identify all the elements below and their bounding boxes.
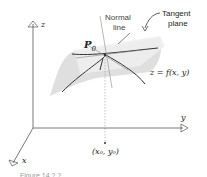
x-axis-label: x xyxy=(22,157,27,165)
tangent-leader-arrow xyxy=(145,13,160,28)
z-axis-label: z xyxy=(41,21,45,29)
normal-label-1: Normal xyxy=(105,14,131,22)
normal-label-2: line xyxy=(113,24,125,32)
base-point-label: (x₀, y₀) xyxy=(92,148,119,156)
base-point xyxy=(104,142,106,144)
tangent-plane-diagram: z y x Normal line Tangent plane P0 z = f… xyxy=(0,0,207,177)
point-label: P0 xyxy=(84,40,96,53)
y-axis-label: y xyxy=(181,114,186,122)
point-p0 xyxy=(104,54,106,56)
surface-equation: z = f(x, y) xyxy=(150,69,189,77)
arrowhead-icon xyxy=(142,26,148,31)
tangent-label-1: Tangent xyxy=(162,10,190,18)
figure-caption: Figure 14.?.? xyxy=(20,172,61,177)
tangent-label-2: plane xyxy=(168,20,188,28)
x-arrow-icon xyxy=(9,160,18,166)
point-subscript: 0 xyxy=(92,45,96,53)
point-letter: P xyxy=(84,39,92,50)
